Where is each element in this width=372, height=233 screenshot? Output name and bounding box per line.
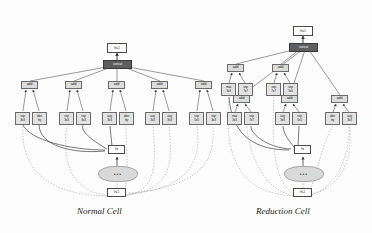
reduction-add-5: add (331, 95, 348, 103)
reduction-hidden-states-cloud: ••• (284, 166, 324, 182)
reduction-cloud-dots: ••• (300, 171, 308, 177)
normal-cloud-dots: ••• (114, 171, 122, 177)
reduction-op-2b-line2: 5x5 (288, 90, 292, 93)
normal-op-5a: sep5x5 (189, 112, 204, 125)
reduction-output-sub: i+1 (302, 30, 305, 33)
reduction-add-4: add (281, 95, 298, 103)
normal-op-4a-line2: 3x3 (150, 119, 154, 122)
reduction-op-5b: avg3x3 (342, 112, 357, 125)
reduction-add-4-label: add (287, 97, 292, 101)
normal-cell-caption: Normal Cell (77, 206, 122, 216)
normal-input-hi: hi (108, 145, 125, 154)
reduction-add-1-label: add (233, 66, 238, 70)
normal-concat-label: concat (113, 63, 122, 66)
normal-add-2-label: add (71, 83, 76, 87)
normal-op-3b: identity (119, 112, 134, 125)
figure-canvas: hi+1 concat add add add add add sep3x3 i… (0, 0, 372, 233)
reduction-op-3a: max3x3 (227, 112, 242, 125)
reduction-concat-node: concat (289, 43, 318, 52)
normal-input-hprev-sub: i-1 (116, 191, 119, 194)
reduction-op-1a: max3x3 (221, 83, 236, 96)
normal-input-hprev: hi-1 (107, 188, 126, 197)
reduction-op-2b: sep5x5 (283, 83, 298, 96)
reduction-add-5-label: add (337, 97, 342, 101)
normal-op-1a: sep3x3 (15, 112, 30, 125)
normal-op-5a-line2: 5x5 (194, 119, 198, 122)
normal-op-5b-line2: 3x3 (211, 119, 215, 122)
normal-output-node: hi+1 (107, 43, 127, 53)
normal-add-1: add (21, 81, 38, 89)
normal-hidden-states-cloud: ••• (98, 166, 138, 182)
reduction-op-1b-line2: 7x7 (243, 90, 247, 93)
normal-op-5b: sep3x3 (206, 112, 221, 125)
normal-add-3-label: add (114, 83, 119, 87)
normal-op-4b: avg3x3 (162, 112, 177, 125)
reduction-add-2: add (272, 64, 289, 72)
reduction-input-hprev-sub: i-1 (302, 191, 305, 194)
normal-concat-node: concat (103, 60, 132, 69)
reduction-op-5a: identity (325, 112, 340, 125)
edge-layer (0, 0, 372, 233)
normal-op-1b-line2: tity (37, 119, 42, 122)
normal-add-2: add (65, 81, 82, 89)
reduction-cell-caption: Reduction Cell (256, 206, 310, 216)
normal-op-1a-line2: 3x3 (20, 119, 24, 122)
normal-add-4: add (151, 81, 168, 89)
reduction-op-4b: sep5x5 (292, 112, 307, 125)
reduction-op-1a-line2: 3x3 (226, 90, 231, 93)
normal-op-4a: avg3x3 (145, 112, 160, 125)
normal-output-sub: i+1 (116, 47, 119, 50)
normal-op-1b: identity (32, 112, 47, 125)
normal-op-2a-line2: 3x3 (64, 119, 68, 122)
reduction-add-1: add (227, 64, 244, 72)
reduction-op-4a: avg3x3 (275, 112, 290, 125)
reduction-op-3b-line2: 7x7 (249, 119, 253, 122)
reduction-concat-label: concat (299, 46, 308, 49)
reduction-input-hi: hi (294, 145, 311, 154)
reduction-op-2a-line2: 7x7 (271, 90, 275, 93)
normal-op-2b: sep3x3 (76, 112, 91, 125)
reduction-output-node: hi+1 (293, 26, 313, 36)
reduction-add-2-label: add (278, 66, 283, 70)
normal-add-5: add (195, 81, 212, 89)
normal-op-3b-line2: tity (124, 119, 129, 122)
normal-add-3: add (108, 81, 125, 89)
reduction-op-5a-line2: tity (330, 119, 335, 122)
reduction-add-3: add (233, 95, 250, 103)
normal-op-2b-line2: 3x3 (81, 119, 85, 122)
reduction-op-2a: sep7x7 (266, 83, 281, 96)
normal-add-4-label: add (157, 83, 162, 87)
normal-op-4b-line2: 3x3 (167, 119, 171, 122)
normal-add-5-label: add (201, 83, 206, 87)
reduction-op-3a-line2: 3x3 (232, 119, 237, 122)
reduction-op-5b-line2: 3x3 (347, 119, 351, 122)
normal-op-2a: sep3x3 (59, 112, 74, 125)
reduction-op-4b-line2: 5x5 (297, 119, 301, 122)
normal-add-1-label: add (27, 83, 32, 87)
reduction-op-1b: sep7x7 (238, 83, 253, 96)
reduction-add-3-label: add (239, 97, 244, 101)
reduction-op-4a-line2: 3x3 (280, 119, 284, 122)
reduction-input-hprev: hi-1 (293, 188, 312, 197)
reduction-op-3b: sep7x7 (244, 112, 259, 125)
normal-op-3a-line2: 3x3 (107, 119, 111, 122)
normal-op-3a: avg3x3 (102, 112, 117, 125)
